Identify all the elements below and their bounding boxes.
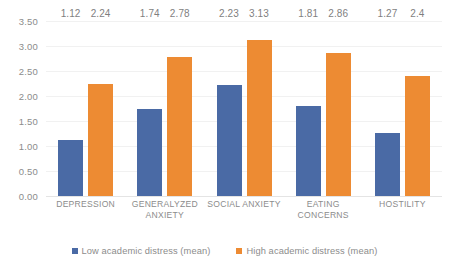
bar-group: 2.233.13 xyxy=(204,21,283,196)
bar-group: 1.122.24 xyxy=(46,21,125,196)
legend-label: Low academic distress (mean) xyxy=(82,246,211,256)
legend-swatch-icon xyxy=(236,248,242,254)
chart-legend: Low academic distress (mean)High academi… xyxy=(0,246,449,256)
bar-groups: 1.122.241.742.782.233.131.812.861.272.4 xyxy=(46,21,442,196)
bar-slot: 1.81 xyxy=(296,21,321,196)
bar[interactable]: 2.78 xyxy=(167,57,192,196)
bar-slot: 1.12 xyxy=(58,21,83,196)
bar[interactable]: 2.24 xyxy=(88,84,113,196)
x-axis-category-label: HOSTILITY xyxy=(363,199,442,239)
bar-value-label: 2.78 xyxy=(170,8,190,19)
x-axis-category-label: DEPRESSION xyxy=(46,199,125,239)
y-axis-tick-label: 2.50 xyxy=(19,66,38,77)
bar[interactable]: 1.81 xyxy=(296,106,321,197)
y-axis-tick-label: 1.00 xyxy=(19,141,38,152)
y-axis-tick-label: 0.00 xyxy=(19,191,38,202)
x-axis: DEPRESSIONGENERALYZED ANXIETYSOCIAL ANXI… xyxy=(46,199,442,239)
bar-slot: 1.74 xyxy=(137,21,162,196)
bar[interactable]: 2.86 xyxy=(326,53,351,196)
legend-swatch-icon xyxy=(72,248,78,254)
bar[interactable]: 3.13 xyxy=(247,40,272,197)
bar-group: 1.812.86 xyxy=(284,21,363,196)
bar-value-label: 1.81 xyxy=(298,8,318,19)
bar-value-label: 2.86 xyxy=(328,8,348,19)
bar-value-label: 1.27 xyxy=(377,8,397,19)
bar-slot: 2.24 xyxy=(88,21,113,196)
gridline xyxy=(46,196,442,197)
bar[interactable]: 1.27 xyxy=(375,133,400,197)
bar-chart: 0.000.501.001.502.002.503.003.50 1.122.2… xyxy=(0,0,449,269)
x-axis-category-label: SOCIAL ANXIETY xyxy=(204,199,283,239)
bar-value-label: 2.4 xyxy=(410,8,424,19)
x-axis-category-label: EATING CONCERNS xyxy=(284,199,363,239)
bar-slot: 2.86 xyxy=(326,21,351,196)
legend-item[interactable]: Low academic distress (mean) xyxy=(72,246,211,256)
bar[interactable]: 2.23 xyxy=(217,85,242,197)
bar[interactable]: 1.12 xyxy=(58,140,83,196)
bar-value-label: 2.23 xyxy=(219,8,239,19)
bar-value-label: 1.74 xyxy=(140,8,160,19)
legend-label: High academic distress (mean) xyxy=(246,246,377,256)
bar-group: 1.742.78 xyxy=(125,21,204,196)
y-axis-tick-label: 3.00 xyxy=(19,41,38,52)
bar-slot: 2.4 xyxy=(405,21,430,196)
bar[interactable]: 2.4 xyxy=(405,76,430,196)
bar-slot: 3.13 xyxy=(247,21,272,196)
y-axis-tick-label: 3.50 xyxy=(19,16,38,27)
y-axis-tick-label: 2.00 xyxy=(19,91,38,102)
y-axis-tick-label: 1.50 xyxy=(19,116,38,127)
bar-value-label: 2.24 xyxy=(91,8,111,19)
bar-slot: 1.27 xyxy=(375,21,400,196)
bar-value-label: 1.12 xyxy=(61,8,81,19)
y-axis: 0.000.501.001.502.002.503.003.50 xyxy=(0,21,42,196)
y-axis-tick-label: 0.50 xyxy=(19,166,38,177)
bar-group: 1.272.4 xyxy=(363,21,442,196)
bar-value-label: 3.13 xyxy=(249,8,269,19)
legend-item[interactable]: High academic distress (mean) xyxy=(236,246,377,256)
bar-slot: 2.78 xyxy=(167,21,192,196)
bar[interactable]: 1.74 xyxy=(137,109,162,196)
x-axis-category-label: GENERALYZED ANXIETY xyxy=(125,199,204,239)
bar-slot: 2.23 xyxy=(217,21,242,196)
